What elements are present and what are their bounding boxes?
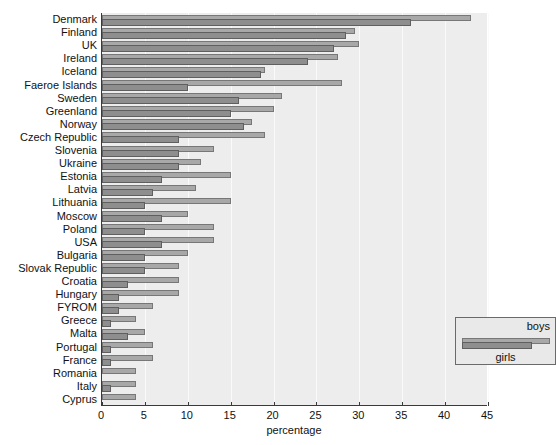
bar-girls[interactable] bbox=[102, 202, 145, 209]
y-tick-label: Greece bbox=[61, 315, 97, 326]
x-tick-label: 10 bbox=[181, 409, 193, 422]
y-tick-label: Slovenia bbox=[55, 145, 97, 156]
y-tick-label: Sweden bbox=[57, 93, 97, 104]
bar-row[interactable] bbox=[102, 250, 487, 263]
bar-girls[interactable] bbox=[102, 320, 111, 327]
bar-row[interactable] bbox=[102, 146, 487, 159]
bar-row[interactable] bbox=[102, 224, 487, 237]
x-tick-label: 30 bbox=[352, 409, 364, 422]
tick-mark bbox=[145, 402, 146, 406]
x-tick-label: 45 bbox=[481, 409, 493, 422]
bar-girls[interactable] bbox=[102, 307, 119, 314]
y-tick-label: Malta bbox=[70, 328, 97, 339]
bar-girls[interactable] bbox=[102, 71, 261, 78]
bar-row[interactable] bbox=[102, 132, 487, 145]
bar-girls[interactable] bbox=[102, 97, 239, 104]
x-axis-title: percentage bbox=[101, 424, 487, 436]
bar-row[interactable] bbox=[102, 15, 487, 28]
bar-girls[interactable] bbox=[102, 123, 244, 130]
bar-row[interactable] bbox=[102, 342, 487, 355]
y-tick-label: Faeroe Islands bbox=[24, 80, 97, 91]
bar-girls[interactable] bbox=[102, 346, 111, 353]
x-tick-label: 0 bbox=[98, 409, 104, 422]
bar-boys[interactable] bbox=[102, 368, 136, 374]
bar-row[interactable] bbox=[102, 41, 487, 54]
bar-row[interactable] bbox=[102, 28, 487, 41]
x-tick-label: 35 bbox=[395, 409, 407, 422]
bar-row[interactable] bbox=[102, 277, 487, 290]
bar-girls[interactable] bbox=[102, 58, 308, 65]
bar-row[interactable] bbox=[102, 394, 487, 407]
bar-girls[interactable] bbox=[102, 45, 334, 52]
bar-girls[interactable] bbox=[102, 254, 145, 261]
x-tick-label: 15 bbox=[224, 409, 236, 422]
y-tick-label: Ireland bbox=[63, 53, 97, 64]
bar-girls[interactable] bbox=[102, 110, 231, 117]
bar-girls[interactable] bbox=[102, 84, 188, 91]
tick-mark bbox=[359, 402, 360, 406]
y-axis-labels: DenmarkFinlandUKIrelandIcelandFaeroe Isl… bbox=[0, 13, 97, 406]
bar-girls[interactable] bbox=[102, 215, 162, 222]
bar-girls[interactable] bbox=[102, 241, 162, 248]
y-tick-label: Norway bbox=[60, 119, 97, 130]
bar-girls[interactable] bbox=[102, 281, 128, 288]
y-tick-label: Greenland bbox=[46, 106, 97, 117]
bar-row[interactable] bbox=[102, 290, 487, 303]
y-tick-label: Slovak Republic bbox=[18, 263, 97, 274]
bar-row[interactable] bbox=[102, 329, 487, 342]
x-axis-labels: 051015202530354045 bbox=[0, 409, 508, 425]
plot-area: boys girls bbox=[101, 13, 487, 406]
x-tick-label: 5 bbox=[141, 409, 147, 422]
bar-girls[interactable] bbox=[102, 267, 145, 274]
legend-label-girls: girls bbox=[495, 351, 515, 363]
y-tick-label: Poland bbox=[63, 224, 97, 235]
bar-row[interactable] bbox=[102, 80, 487, 93]
bar-row[interactable] bbox=[102, 172, 487, 185]
y-tick-label: Romania bbox=[53, 368, 97, 379]
bar-row[interactable] bbox=[102, 67, 487, 80]
bar-girls[interactable] bbox=[102, 32, 346, 39]
bar-row[interactable] bbox=[102, 211, 487, 224]
bar-row[interactable] bbox=[102, 303, 487, 316]
bar-row[interactable] bbox=[102, 159, 487, 172]
bar-row[interactable] bbox=[102, 119, 487, 132]
bar-girls[interactable] bbox=[102, 189, 153, 196]
bar-row[interactable] bbox=[102, 263, 487, 276]
y-tick-label: Bulgaria bbox=[57, 250, 97, 261]
bar-girls[interactable] bbox=[102, 150, 179, 157]
bar-girls[interactable] bbox=[102, 136, 179, 143]
y-tick-label: Croatia bbox=[62, 276, 97, 287]
legend: boys girls bbox=[455, 317, 556, 365]
tick-mark bbox=[316, 402, 317, 406]
bar-row[interactable] bbox=[102, 381, 487, 394]
bar-girls[interactable] bbox=[102, 333, 128, 340]
bar-row[interactable] bbox=[102, 368, 487, 381]
tick-mark bbox=[231, 402, 232, 406]
x-tick-label: 40 bbox=[438, 409, 450, 422]
bar-boys[interactable] bbox=[102, 394, 136, 400]
bar-row[interactable] bbox=[102, 198, 487, 211]
y-tick-label: Italy bbox=[77, 381, 97, 392]
y-tick-label: Moscow bbox=[57, 211, 97, 222]
bar-girls[interactable] bbox=[102, 163, 179, 170]
tick-mark bbox=[102, 402, 103, 406]
bar-girls[interactable] bbox=[102, 359, 111, 366]
y-tick-label: Ukraine bbox=[59, 158, 97, 169]
bar-girls[interactable] bbox=[102, 176, 162, 183]
legend-label-boys: boys bbox=[527, 320, 550, 332]
tick-mark bbox=[445, 402, 446, 406]
bar-row[interactable] bbox=[102, 54, 487, 67]
bar-row[interactable] bbox=[102, 355, 487, 368]
bar-row[interactable] bbox=[102, 316, 487, 329]
bar-girls[interactable] bbox=[102, 228, 145, 235]
bar-girls[interactable] bbox=[102, 294, 119, 301]
bar-girls[interactable] bbox=[102, 385, 111, 392]
bar-row[interactable] bbox=[102, 106, 487, 119]
y-tick-label: UK bbox=[82, 40, 97, 51]
bar-row[interactable] bbox=[102, 185, 487, 198]
bar-girls[interactable] bbox=[102, 19, 411, 26]
bar-row[interactable] bbox=[102, 93, 487, 106]
bar-row[interactable] bbox=[102, 237, 487, 250]
y-tick-label: FYROM bbox=[57, 302, 97, 313]
